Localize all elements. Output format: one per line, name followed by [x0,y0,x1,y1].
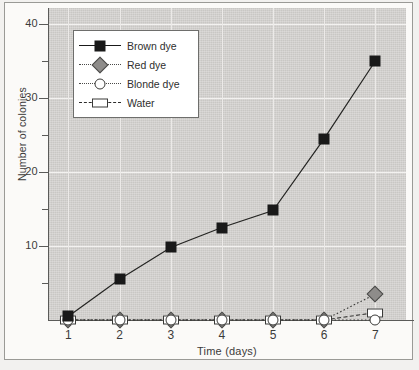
x-tick-label: 7 [363,328,387,342]
legend-key-red-dye [79,57,121,73]
legend-key-blonde-dye [79,76,121,92]
legend-item-blonde-dye[interactable]: Blonde dye [79,74,191,93]
data-point-blonde-dye-day-7 [370,315,381,326]
filled-square-icon [95,40,106,51]
y-tick-major [39,246,48,247]
gridline-horizontal [48,246,406,247]
data-point-brown-dye-day-3 [165,242,176,253]
y-axis-title: Number of colonies [16,64,28,204]
legend-item-brown-dye[interactable]: Brown dye [79,36,191,55]
legend-item-red-dye[interactable]: Red dye [79,55,191,74]
data-point-blonde-dye-day-6 [319,315,330,326]
legend-label-water: Water [121,97,155,109]
x-tick-label: 1 [56,328,80,342]
x-tick-label: 3 [159,328,183,342]
y-tick-label: 10 [25,239,38,251]
legend-label-blonde-dye: Blonde dye [121,78,180,90]
data-point-brown-dye-day-1 [63,311,74,322]
data-point-blonde-dye-day-4 [216,315,227,326]
x-axis-title: Time (days) [48,345,406,357]
data-point-brown-dye-day-7 [370,56,381,67]
chart-figure: 102030401234567 Number of colonies Time … [0,0,419,370]
x-axis-line [48,320,414,321]
gridline-vertical [324,8,325,320]
gridline-vertical [273,8,274,320]
open-rectangle-icon [92,98,108,107]
y-tick-label: 40 [25,17,38,29]
x-tick-label: 6 [312,328,336,342]
legend-key-water [79,95,121,111]
y-axis-line [48,8,49,320]
data-point-blonde-dye-day-5 [268,315,279,326]
gridline-vertical [68,8,69,320]
x-tick-label: 2 [108,328,132,342]
data-point-brown-dye-day-4 [216,222,227,233]
data-point-brown-dye-day-2 [114,274,125,285]
gridline-horizontal [48,172,406,173]
data-point-brown-dye-day-6 [319,133,330,144]
y-tick-major [39,24,48,25]
x-tick-label: 5 [261,328,285,342]
legend-label-red-dye: Red dye [121,59,166,71]
gray-diamond-icon [92,56,109,73]
gridline-vertical [222,8,223,320]
open-circle-icon [95,78,106,89]
legend-item-water[interactable]: Water [79,93,191,112]
legend: Brown dye Red dye Blonde dye Water [73,30,199,118]
x-tick-label: 4 [210,328,234,342]
legend-key-brown-dye [79,38,121,54]
data-point-blonde-dye-day-2 [114,315,125,326]
y-tick-major [39,172,48,173]
gridline-horizontal [48,24,406,25]
data-point-blonde-dye-day-3 [165,315,176,326]
y-tick-major [39,98,48,99]
data-point-brown-dye-day-5 [268,205,279,216]
legend-label-brown-dye: Brown dye [121,40,177,52]
